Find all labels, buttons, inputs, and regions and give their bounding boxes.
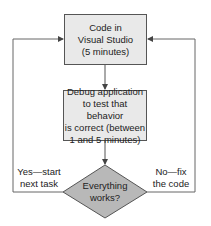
code-node-text: Code in Visual Studio (5 minutes) <box>78 22 133 58</box>
flowchart-canvas: Code in Visual Studio (5 minutes) Debug … <box>0 0 211 226</box>
debug-node-text: Debug application to test that behavior … <box>64 86 146 146</box>
code-node: Code in Visual Studio (5 minutes) <box>64 14 147 65</box>
yes-edge-label: Yes—start next task <box>14 166 64 190</box>
decision-node-text: Everything works? <box>70 180 140 204</box>
debug-node: Debug application to test that behavior … <box>63 90 147 141</box>
no-edge-label: No—fix the code <box>146 166 196 190</box>
